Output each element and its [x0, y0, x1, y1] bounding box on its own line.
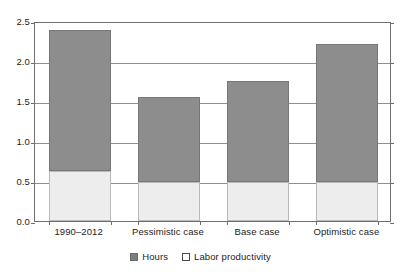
bar-segment-hours	[138, 97, 200, 182]
legend-item: Hours	[130, 251, 168, 262]
x-axis-tick-mark	[227, 221, 228, 225]
x-axis-tick-label: Optimistic case	[302, 226, 391, 238]
y-axis-tick-mark-right	[390, 183, 394, 184]
x-axis-tick-mark	[138, 221, 139, 225]
y-axis-tick-label: 1.5	[0, 97, 30, 107]
x-axis-tick-label: Pessimistic case	[123, 226, 212, 238]
plot-inner	[35, 23, 390, 221]
bar-segment-labor-productivity	[138, 182, 200, 221]
white-square-icon	[182, 253, 190, 261]
y-axis-tick-mark-right	[390, 23, 394, 24]
x-axis-tick-mark	[111, 221, 112, 225]
bar-segment-hours	[49, 30, 111, 172]
legend-label: Hours	[142, 251, 168, 262]
bar-segment-labor-productivity	[49, 171, 111, 221]
y-axis-tick-mark	[31, 223, 35, 224]
x-axis-tick-label: 1990–2012	[34, 226, 123, 238]
x-axis-tick-mark	[289, 221, 290, 225]
y-axis-tick-mark	[31, 63, 35, 64]
y-axis-tick-mark-right	[390, 63, 394, 64]
bar-segment-hours	[227, 81, 289, 182]
bar-segment-labor-productivity	[227, 182, 289, 221]
stacked-bar-chart: 0.00.51.01.52.02.5 1990–2012Pessimistic …	[0, 0, 401, 275]
x-axis-tick-labels: 1990–2012Pessimistic caseBase caseOptimi…	[34, 226, 391, 242]
y-axis-tick-mark	[31, 183, 35, 184]
x-axis-tick-label: Base case	[213, 226, 302, 238]
bar-segment-labor-productivity	[316, 182, 378, 221]
y-axis-tick-mark	[31, 23, 35, 24]
bar-segment-hours	[316, 44, 378, 182]
y-axis-tick-label: 2.5	[0, 17, 30, 27]
y-axis-tick-mark-right	[390, 103, 394, 104]
y-axis-tick-mark	[31, 143, 35, 144]
y-axis-tick-label: 2.0	[0, 57, 30, 67]
legend-label: Labor productivity	[194, 251, 271, 262]
y-axis-tick-label: 0.0	[0, 217, 30, 227]
y-axis-tick-labels: 0.00.51.01.52.02.5	[0, 0, 30, 275]
y-axis-tick-mark-right	[390, 143, 394, 144]
plot-area	[34, 22, 391, 222]
y-axis-tick-mark	[31, 103, 35, 104]
x-axis-tick-mark	[378, 221, 379, 225]
x-axis-tick-mark	[200, 221, 201, 225]
y-axis-tick-mark-right	[390, 223, 394, 224]
x-axis-tick-mark	[316, 221, 317, 225]
y-axis-tick-label: 0.5	[0, 177, 30, 187]
legend-item: Labor productivity	[182, 251, 271, 262]
y-axis-tick-label: 1.0	[0, 137, 30, 147]
dark-gray-square-icon	[130, 253, 138, 261]
chart-legend: HoursLabor productivity	[0, 251, 401, 262]
x-axis-tick-mark	[49, 221, 50, 225]
